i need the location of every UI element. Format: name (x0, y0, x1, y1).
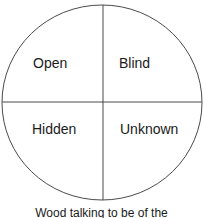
figure-caption: Wood talking to be of the (0, 206, 203, 218)
quadrant-open-label: Open (33, 55, 67, 71)
quadrant-hidden-label: Hidden (32, 121, 76, 137)
circle-diagram (0, 0, 203, 218)
quadrant-blind-label: Blind (119, 55, 150, 71)
quadrant-unknown-label: Unknown (120, 121, 178, 137)
